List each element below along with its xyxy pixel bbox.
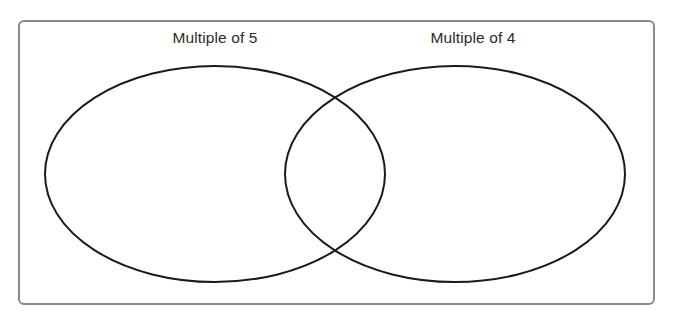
venn-right-set-label: Multiple of 4 <box>373 28 573 47</box>
venn-left-set-label: Multiple of 5 <box>115 28 315 47</box>
venn-diagram-worksheet: Multiple of 5 Multiple of 4 <box>0 0 673 322</box>
venn-universal-set-frame <box>18 20 655 305</box>
